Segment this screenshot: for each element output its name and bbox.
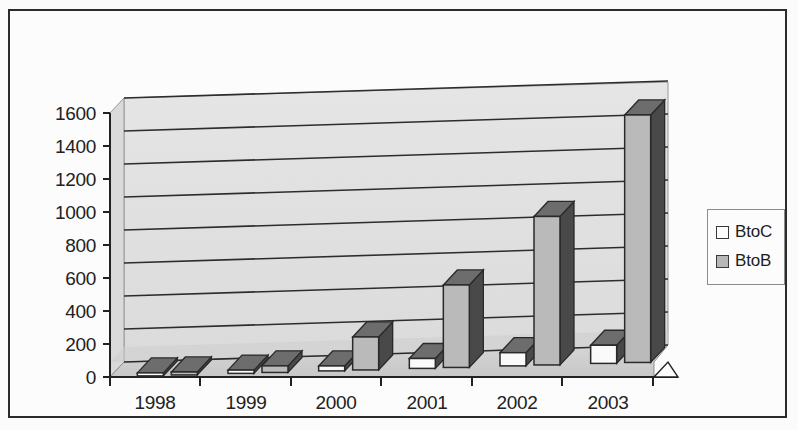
y-tick-label: 800 bbox=[34, 235, 96, 257]
bar-btob-2002 bbox=[534, 201, 574, 365]
y-tick-label: 200 bbox=[34, 334, 96, 356]
y-tick-label: 1200 bbox=[34, 169, 96, 191]
y-tick-label: 600 bbox=[34, 268, 96, 290]
y-tick-label: 0 bbox=[34, 367, 96, 389]
bar-btob-2003 bbox=[625, 100, 665, 363]
y-tick-label: 400 bbox=[34, 301, 96, 323]
x-tick-label-2002: 2002 bbox=[477, 392, 557, 414]
chart-screenshot: 1600 1400 1200 1000 800 600 400 200 0 19… bbox=[0, 0, 798, 430]
chart-legend: BtoC BtoB bbox=[707, 209, 785, 285]
y-tick-label: 1000 bbox=[34, 202, 96, 224]
x-tick-label-1999: 1999 bbox=[206, 392, 286, 414]
x-tick-label-1998: 1998 bbox=[115, 392, 195, 414]
y-tick-label: 1400 bbox=[34, 136, 96, 158]
x-axis bbox=[110, 377, 678, 386]
plot-left-wall bbox=[110, 98, 124, 377]
x-tick-label-2003: 2003 bbox=[568, 392, 648, 414]
legend-item-btob: BtoB bbox=[716, 251, 771, 271]
legend-label-btoc: BtoC bbox=[735, 222, 772, 242]
legend-label-btob: BtoB bbox=[735, 251, 771, 271]
x-tick-label-2000: 2000 bbox=[296, 392, 376, 414]
x-tick-label-2001: 2001 bbox=[387, 392, 467, 414]
y-tick-label: 1600 bbox=[34, 103, 96, 125]
legend-item-btoc: BtoC bbox=[716, 222, 772, 242]
floor-right-wedge bbox=[654, 362, 678, 377]
chart-canvas bbox=[0, 0, 798, 430]
legend-swatch-btoc bbox=[716, 226, 729, 239]
bar-chart: 1600 1400 1200 1000 800 600 400 200 0 19… bbox=[0, 0, 798, 430]
bar-btob-2001 bbox=[443, 270, 483, 368]
y-axis bbox=[103, 113, 110, 377]
legend-swatch-btob bbox=[716, 255, 729, 268]
